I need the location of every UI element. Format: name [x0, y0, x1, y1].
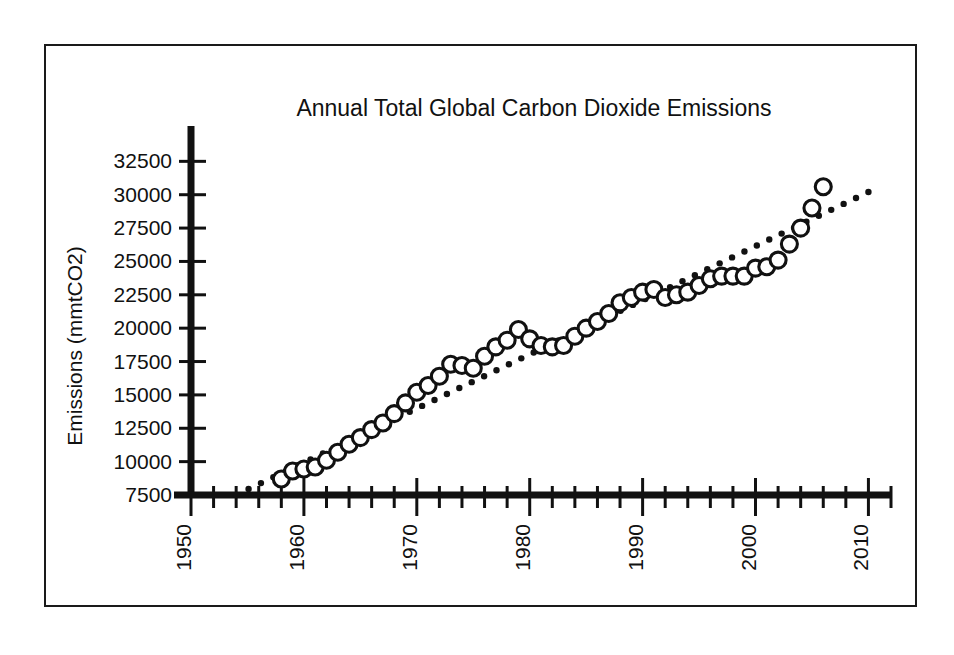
y-tick-label: 20000 [114, 316, 172, 339]
chart-svg: Annual Total Global Carbon Dioxide Emiss… [46, 46, 919, 609]
x-tick-label: 1990 [624, 524, 647, 571]
data-point-marker [781, 236, 797, 252]
y-tick-label: 7500 [125, 483, 172, 506]
data-point-marker [804, 200, 820, 216]
y-tick-label: 22500 [114, 283, 172, 306]
trendline-dot [258, 480, 264, 486]
x-tick-label: 2000 [737, 524, 760, 571]
y-tick-label: 30000 [114, 183, 172, 206]
trendline-dot [419, 403, 425, 409]
chart-title: Annual Total Global Carbon Dioxide Emiss… [296, 95, 771, 121]
trendline-dot [754, 242, 760, 248]
x-tick-label: 1970 [398, 524, 421, 571]
y-tick-label: 32500 [114, 149, 172, 172]
trendline-dot [469, 379, 475, 385]
data-point-marker [815, 179, 831, 195]
trendline-dot [506, 361, 512, 367]
y-tick-label: 25000 [114, 249, 172, 272]
data-point-marker [770, 252, 786, 268]
trendline-dot [444, 391, 450, 397]
trendline-dot [456, 385, 462, 391]
trendline-dot [233, 492, 239, 498]
trendline-dot [716, 260, 722, 266]
trendline-dot [245, 486, 251, 492]
figure-frame: Annual Total Global Carbon Dioxide Emiss… [44, 44, 917, 607]
y-tick-label: 17500 [114, 350, 172, 373]
x-tick-label: 1950 [172, 524, 195, 571]
trendline-dot [828, 207, 834, 213]
trendline-dot [493, 367, 499, 373]
trendline-dot [840, 201, 846, 207]
data-point-markers [273, 179, 831, 487]
trendline-dot [766, 236, 772, 242]
chart-plot-area: Annual Total Global Carbon Dioxide Emiss… [46, 46, 919, 609]
trendline-dot [778, 230, 784, 236]
trendline-dot [865, 189, 871, 195]
trendline-dot [431, 397, 437, 403]
trendline-dot [741, 248, 747, 254]
x-tick-label: 2010 [849, 524, 872, 571]
y-tick-label: 10000 [114, 450, 172, 473]
y-tick-label: 12500 [114, 416, 172, 439]
x-tick-label: 1960 [285, 524, 308, 571]
x-tick-label: 1980 [511, 524, 534, 571]
trendline-dot [518, 355, 524, 361]
y-axis-title: Emissions (mmtCO2) [63, 246, 86, 446]
y-tick-label: 27500 [114, 216, 172, 239]
data-point-marker [793, 220, 809, 236]
y-tick-label: 15000 [114, 383, 172, 406]
trendline-dot [481, 373, 487, 379]
trendline-dot [729, 254, 735, 260]
trendline-dot [853, 195, 859, 201]
